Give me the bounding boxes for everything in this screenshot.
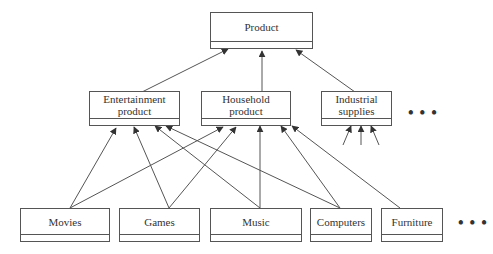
class-name: Industrial supplies <box>322 92 391 119</box>
class-attributes <box>211 235 301 241</box>
edge-entertainment-product <box>140 49 228 93</box>
class-hierarchy-diagram: Product Entertainment product Household … <box>0 0 493 254</box>
edge-music-entertainment <box>155 126 260 208</box>
class-attributes <box>322 119 391 125</box>
edge-games-entertainment <box>134 127 169 208</box>
class-name: Music <box>211 209 301 235</box>
class-attributes <box>211 42 312 48</box>
class-name: Entertainment product <box>90 92 179 119</box>
class-furniture: Furniture <box>381 208 443 242</box>
class-movies: Movies <box>20 208 110 242</box>
class-attributes <box>202 119 290 125</box>
class-entertainment-product: Entertainment product <box>89 91 180 126</box>
edge-industrial-sub-1 <box>343 126 351 145</box>
ellipsis-more-categories: • • • <box>408 104 438 122</box>
class-attributes <box>311 235 371 241</box>
class-attributes <box>382 235 442 241</box>
class-industrial-supplies: Industrial supplies <box>321 91 392 126</box>
class-attributes <box>120 235 199 241</box>
class-name: Computers <box>311 209 371 235</box>
edge-industrial-product <box>296 50 355 92</box>
class-name: Games <box>120 209 199 235</box>
edge-computers-entertainment <box>166 126 340 208</box>
class-games: Games <box>119 208 200 242</box>
class-attributes <box>90 119 179 125</box>
edge-computers-household <box>281 126 340 208</box>
class-name: Product <box>211 13 312 42</box>
edge-games-household <box>169 127 236 208</box>
class-name: Household product <box>202 92 290 119</box>
ellipsis-more-items: • • • <box>458 214 488 232</box>
class-name: Furniture <box>382 209 442 235</box>
class-attributes <box>21 235 109 241</box>
class-household-product: Household product <box>201 91 291 126</box>
class-computers: Computers <box>310 208 372 242</box>
class-name: Movies <box>21 209 109 235</box>
edge-industrial-sub-3 <box>371 126 379 145</box>
class-music: Music <box>210 208 302 242</box>
class-product: Product <box>210 12 313 49</box>
